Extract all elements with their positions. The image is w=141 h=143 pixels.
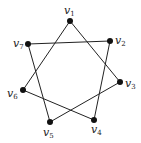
vertex-label-v3: v3: [125, 77, 136, 91]
edge-v6-v4: [23, 90, 94, 120]
edge-v7-v2: [28, 41, 110, 44]
edge-v1-v3: [70, 21, 120, 82]
vertex-label-v7: v7: [13, 37, 24, 51]
vertex-v2: [107, 38, 113, 44]
labels-group: v1v2v3v4v5v6v7: [7, 4, 136, 140]
vertex-v5: [47, 119, 53, 125]
vertex-label-v5: v5: [43, 126, 54, 140]
vertex-v7: [25, 41, 31, 47]
edges-group: [23, 21, 120, 122]
vertex-label-v1: v1: [64, 4, 75, 18]
star-heptagon-graph: v1v2v3v4v5v6v7: [0, 0, 141, 143]
vertex-label-v2: v2: [115, 34, 126, 48]
vertex-v3: [117, 79, 123, 85]
vertex-label-v6: v6: [7, 87, 18, 101]
vertex-v6: [20, 87, 26, 93]
vertex-v1: [67, 18, 73, 24]
edge-v1-v6: [23, 21, 70, 90]
vertex-label-v4: v4: [91, 123, 102, 137]
